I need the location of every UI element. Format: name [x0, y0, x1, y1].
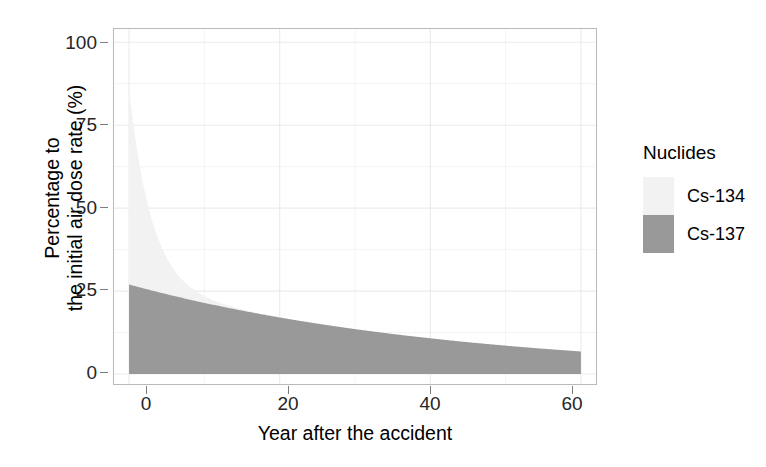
legend-item-cs-134[interactable]: Cs-134: [643, 177, 763, 215]
legend-label-cs-137: Cs-137: [687, 225, 745, 243]
x-tick-label: 60: [542, 394, 602, 413]
legend-item-cs-137[interactable]: Cs-137: [643, 215, 763, 253]
chart-figure: 100 75 50 25 0 Percentage to the initial…: [0, 0, 766, 467]
legend: Nuclides Cs-134 Cs-137: [643, 142, 763, 253]
x-tick-label: 40: [400, 394, 460, 413]
x-tick-label: 0: [116, 394, 176, 413]
legend-swatch-cs-134: [643, 177, 674, 215]
legend-title: Nuclides: [643, 142, 763, 164]
legend-swatch-cs-137: [643, 215, 674, 253]
x-axis-title: Year after the accident: [113, 422, 597, 444]
legend-label-cs-134: Cs-134: [687, 187, 745, 205]
x-tick-label: 20: [258, 394, 318, 413]
